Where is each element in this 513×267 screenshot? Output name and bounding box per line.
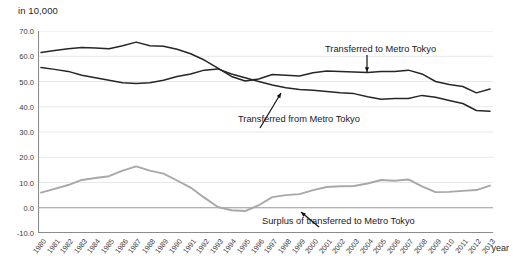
x-tick-label: 1989 <box>153 237 170 255</box>
y-tick-label: 20.0 <box>19 153 34 162</box>
x-tick-label: 1994 <box>221 237 238 255</box>
x-tick-label: 1987 <box>126 237 143 255</box>
x-tick-label: 2002 <box>330 237 347 255</box>
x-tick-label: 2010 <box>439 237 456 255</box>
y-tick-label: 60.0 <box>19 52 34 61</box>
x-tick-label: 2000 <box>303 237 320 255</box>
series-line <box>41 166 490 211</box>
x-tick-label: 1984 <box>85 237 102 255</box>
y-tick-label: 10.0 <box>19 178 34 187</box>
y-axis-unit-label: in 10,000 <box>18 5 58 16</box>
x-tick-label: 1999 <box>290 237 307 255</box>
x-tick-label: 1980 <box>31 237 48 255</box>
y-tick-label: 30.0 <box>19 128 34 137</box>
x-tick-label: 1990 <box>167 237 184 255</box>
x-tick-label: 1998 <box>276 237 293 255</box>
x-tick-label: 2005 <box>371 237 388 255</box>
annotation-transferred-from: Transferred from Metro Tokyo <box>238 114 360 124</box>
x-tick-label: 2004 <box>358 237 375 255</box>
x-tick-label: 2008 <box>412 237 429 255</box>
y-tick-label: 70.0 <box>19 27 34 36</box>
x-tick-label: 1982 <box>58 237 75 255</box>
annotation-surplus: Surplus of transferred to Metro Tokyo <box>262 216 415 226</box>
x-tick-label: 1985 <box>99 237 116 255</box>
plot-svg <box>38 31 493 233</box>
annotation-transferred-to: Transferred to Metro Tokyo <box>325 44 436 54</box>
x-tick-label: 2012 <box>466 237 483 255</box>
y-tick-label: 0.0 <box>23 203 34 212</box>
plot-area: 70.060.050.040.030.020.010.00.0-10.0 198… <box>38 31 493 233</box>
annotation-arrow <box>365 55 369 72</box>
y-tick-label: 50.0 <box>19 77 34 86</box>
x-tick-label: 1997 <box>262 237 279 255</box>
y-tick-label: 40.0 <box>19 102 34 111</box>
x-tick-label: 2007 <box>398 237 415 255</box>
x-tick-label: 1992 <box>194 237 211 255</box>
x-tick-label: 1995 <box>235 237 252 255</box>
y-tick-label: -10.0 <box>17 229 34 238</box>
x-tick-label: 2003 <box>344 237 361 255</box>
migration-line-chart: in 10,000 year 70.060.050.040.030.020.01… <box>0 0 513 267</box>
